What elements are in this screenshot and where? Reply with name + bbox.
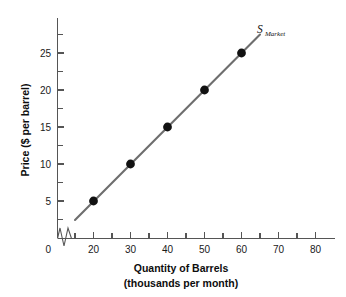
x-label-70: 70 (273, 244, 285, 255)
data-point-20-5 (89, 197, 98, 206)
y-axis-tick-labels: 0 5 10 15 20 25 (40, 48, 52, 256)
x-label-50: 50 (199, 244, 211, 255)
x-axis-title-line2: (thousands per month) (124, 277, 238, 289)
x-axis-title-group: Quantity of Barrels (thousands per month… (124, 262, 238, 289)
y-label-5: 5 (45, 196, 51, 207)
x-axis-title-line1: Quantity of Barrels (134, 262, 229, 274)
y-label-25: 25 (40, 48, 52, 59)
curve-label-s-market: S Market (257, 23, 286, 38)
axes-group (58, 18, 336, 239)
supply-curve-figure: 0 5 10 15 20 25 20 30 40 50 60 70 80 S M… (0, 0, 346, 297)
x-axis-minor-ticks (75, 233, 297, 239)
x-label-60: 60 (236, 244, 248, 255)
y-label-10: 10 (40, 159, 52, 170)
y-axis-title-group: Price ($ per barrel) (19, 84, 31, 177)
x-axis-break-mark (58, 228, 72, 246)
chart-canvas: 0 5 10 15 20 25 20 30 40 50 60 70 80 S M… (0, 0, 346, 297)
x-axis-major-ticks (94, 232, 316, 239)
y-label-0: 0 (45, 244, 51, 255)
x-label-20: 20 (88, 244, 100, 255)
data-point-40-15 (163, 123, 172, 132)
x-label-40: 40 (162, 244, 174, 255)
x-axis-tick-labels: 20 30 40 50 60 70 80 (88, 244, 322, 255)
y-label-20: 20 (40, 85, 52, 96)
curve-label-base: S (257, 23, 263, 35)
y-label-15: 15 (40, 122, 52, 133)
data-point-60-25 (237, 49, 246, 58)
data-point-50-20 (200, 86, 209, 95)
curve-label-subscript: Market (264, 30, 286, 38)
y-axis-title: Price ($ per barrel) (19, 84, 31, 177)
x-label-80: 80 (310, 244, 322, 255)
data-point-30-10 (126, 160, 135, 169)
x-label-30: 30 (125, 244, 137, 255)
